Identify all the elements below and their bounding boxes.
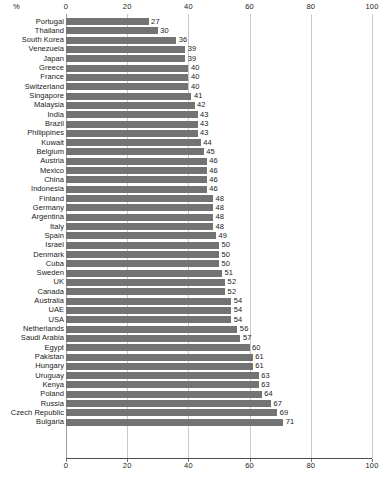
bar-row[interactable]: UK52 bbox=[0, 279, 388, 286]
bar[interactable] bbox=[66, 214, 213, 221]
bar-value-label: 39 bbox=[188, 45, 197, 53]
bar[interactable] bbox=[66, 46, 185, 53]
bar-row[interactable]: Thailand30 bbox=[0, 27, 388, 34]
tick-label-bottom-100: 100 bbox=[365, 461, 378, 470]
bar[interactable] bbox=[66, 381, 259, 388]
bar-row[interactable]: Spain49 bbox=[0, 232, 388, 239]
bar-category-label: Finland bbox=[0, 195, 64, 203]
bar-category-label: Indonesia bbox=[0, 185, 64, 193]
bar[interactable] bbox=[66, 419, 283, 426]
bar-category-label: Malaysia bbox=[0, 101, 64, 109]
bar-row[interactable]: USA54 bbox=[0, 316, 388, 323]
bar[interactable] bbox=[66, 121, 198, 128]
bar[interactable] bbox=[66, 298, 231, 305]
bar-row[interactable]: Venezuela39 bbox=[0, 46, 388, 53]
bar[interactable] bbox=[66, 111, 198, 118]
bar-row[interactable]: Switzerland40 bbox=[0, 83, 388, 90]
bar[interactable] bbox=[66, 400, 271, 407]
bar[interactable] bbox=[66, 37, 176, 44]
bar-row[interactable]: Cuba50 bbox=[0, 260, 388, 267]
bar[interactable] bbox=[66, 204, 213, 211]
bar[interactable] bbox=[66, 391, 262, 398]
bar[interactable] bbox=[66, 223, 213, 230]
bar[interactable] bbox=[66, 372, 259, 379]
bar-row[interactable]: Greece40 bbox=[0, 65, 388, 72]
bar-row[interactable]: Uruguay63 bbox=[0, 372, 388, 379]
bar[interactable] bbox=[66, 195, 213, 202]
bar[interactable] bbox=[66, 83, 188, 90]
bar[interactable] bbox=[66, 93, 191, 100]
bar-row[interactable]: Argentina48 bbox=[0, 214, 388, 221]
bar-chart: % 020406080100 020406080100 Portugal27Th… bbox=[0, 0, 388, 487]
bar[interactable] bbox=[66, 74, 188, 81]
bar-row[interactable]: Hungary61 bbox=[0, 363, 388, 370]
bar-row[interactable]: China46 bbox=[0, 176, 388, 183]
bar[interactable] bbox=[66, 176, 207, 183]
bar[interactable] bbox=[66, 335, 240, 342]
bar[interactable] bbox=[66, 326, 237, 333]
bar[interactable] bbox=[66, 288, 225, 295]
bar-value-label: 50 bbox=[222, 241, 231, 249]
bar[interactable] bbox=[66, 316, 231, 323]
bar[interactable] bbox=[66, 260, 219, 267]
bar-row[interactable]: India43 bbox=[0, 111, 388, 118]
bar[interactable] bbox=[66, 158, 207, 165]
bar-row[interactable]: South Korea36 bbox=[0, 37, 388, 44]
bar[interactable] bbox=[66, 167, 207, 174]
bar[interactable] bbox=[66, 242, 219, 249]
bar-row[interactable]: France40 bbox=[0, 74, 388, 81]
bar-row[interactable]: Portugal27 bbox=[0, 18, 388, 25]
bar-value-label: 69 bbox=[280, 409, 289, 417]
bar[interactable] bbox=[66, 139, 201, 146]
bar[interactable] bbox=[66, 270, 222, 277]
bar-row[interactable]: Finland48 bbox=[0, 195, 388, 202]
bar[interactable] bbox=[66, 344, 250, 351]
bar-row[interactable]: Poland64 bbox=[0, 391, 388, 398]
bar[interactable] bbox=[66, 130, 198, 137]
bar-row[interactable]: Indonesia46 bbox=[0, 186, 388, 193]
bar-row[interactable]: Kuwait44 bbox=[0, 139, 388, 146]
bar[interactable] bbox=[66, 65, 188, 72]
bar[interactable] bbox=[66, 363, 253, 370]
bar[interactable] bbox=[66, 251, 219, 258]
bar-row[interactable]: UAE54 bbox=[0, 307, 388, 314]
bar-row[interactable]: Germany48 bbox=[0, 204, 388, 211]
bar-row[interactable]: Bulgaria71 bbox=[0, 419, 388, 426]
bar-value-label: 50 bbox=[222, 260, 231, 268]
bar-row[interactable]: Egypt60 bbox=[0, 344, 388, 351]
bar[interactable] bbox=[66, 307, 231, 314]
bar-row[interactable]: Japan39 bbox=[0, 55, 388, 62]
bar[interactable] bbox=[66, 409, 277, 416]
bar-row[interactable]: Belgium45 bbox=[0, 148, 388, 155]
tick-label-bottom-0: 0 bbox=[64, 461, 68, 470]
bar-row[interactable]: Russia67 bbox=[0, 400, 388, 407]
bar[interactable] bbox=[66, 354, 253, 361]
bar-row[interactable]: Malaysia42 bbox=[0, 102, 388, 109]
bar-row[interactable]: Denmark50 bbox=[0, 251, 388, 258]
bar-row[interactable]: Brazil43 bbox=[0, 121, 388, 128]
bar-row[interactable]: Pakistan61 bbox=[0, 354, 388, 361]
bar-row[interactable]: Singapore41 bbox=[0, 93, 388, 100]
bar-row[interactable]: Mexico46 bbox=[0, 167, 388, 174]
bar-row[interactable]: Australia54 bbox=[0, 298, 388, 305]
bar-row[interactable]: Saudi Arabia57 bbox=[0, 335, 388, 342]
bar[interactable] bbox=[66, 186, 207, 193]
bar[interactable] bbox=[66, 27, 158, 34]
bar-row[interactable]: Italy48 bbox=[0, 223, 388, 230]
bar[interactable] bbox=[66, 279, 225, 286]
bar[interactable] bbox=[66, 55, 185, 62]
bar-row[interactable]: Czech Republic69 bbox=[0, 409, 388, 416]
bar-row[interactable]: Israel50 bbox=[0, 242, 388, 249]
bar-row[interactable]: Kenya63 bbox=[0, 381, 388, 388]
bar-row[interactable]: Netherlands56 bbox=[0, 326, 388, 333]
bar-row[interactable]: Canada52 bbox=[0, 288, 388, 295]
bar[interactable] bbox=[66, 18, 149, 25]
bar-value-label: 48 bbox=[215, 223, 224, 231]
bar[interactable] bbox=[66, 102, 195, 109]
bar[interactable] bbox=[66, 148, 204, 155]
bar-row[interactable]: Sweden51 bbox=[0, 270, 388, 277]
bar[interactable] bbox=[66, 232, 216, 239]
bar-row[interactable]: Austria46 bbox=[0, 158, 388, 165]
bar-row[interactable]: Philippines43 bbox=[0, 130, 388, 137]
bar-category-label: Greece bbox=[0, 64, 64, 72]
